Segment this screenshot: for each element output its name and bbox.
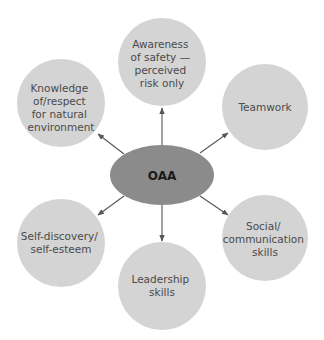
node-awareness-label: Awareness of safety — perceived risk onl… bbox=[130, 38, 193, 89]
node-leadership: Leadership skills bbox=[118, 242, 206, 330]
hub-label: OAA bbox=[148, 169, 177, 183]
arrow-to-social bbox=[200, 196, 228, 215]
arrow-to-knowledge bbox=[98, 134, 124, 154]
node-teamwork: Teamwork bbox=[222, 64, 308, 150]
node-teamwork-label: Teamwork bbox=[237, 101, 292, 113]
arrow-to-self-discovery bbox=[98, 196, 124, 215]
hub-oaa: OAA bbox=[110, 145, 214, 205]
node-awareness: Awareness of safety — perceived risk onl… bbox=[118, 18, 206, 106]
node-self-discovery: Self-discovery/ self-esteem bbox=[17, 199, 105, 287]
node-self-discovery-label: Self-discovery/ self-esteem bbox=[21, 230, 101, 255]
oaa-diagram: Awareness of safety — perceived risk onl… bbox=[0, 0, 324, 340]
node-knowledge: Knowledge of/respect for natural environ… bbox=[17, 59, 105, 147]
node-knowledge-label: Knowledge of/respect for natural environ… bbox=[28, 82, 95, 133]
arrow-to-teamwork bbox=[200, 133, 228, 153]
node-social: Social/ communication skills bbox=[222, 195, 308, 281]
